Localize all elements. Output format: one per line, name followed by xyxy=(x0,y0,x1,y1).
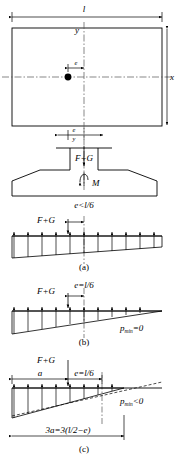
dimension-x-label: x xyxy=(169,72,174,82)
plan-eccentricity-label: e xyxy=(75,59,78,66)
plan-view-group: l y x e xyxy=(2,4,174,140)
section-axis-y-label: y xyxy=(72,135,76,142)
section-eccentricity-label: e xyxy=(73,126,76,133)
case-a-pressure-trapezoid xyxy=(12,236,162,258)
moment-label: M xyxy=(91,178,100,188)
case-c-3a-dim: 3a=3(l/2−e) xyxy=(12,415,124,440)
case-a-load-label: F+G xyxy=(36,215,56,225)
case-c-caption: (c) xyxy=(79,444,89,454)
case-c-3a-label: 3a=3(l/2−e) xyxy=(44,425,90,435)
case-a-group: F+G (a) xyxy=(12,215,162,272)
case-c-load-label: F+G xyxy=(36,355,56,365)
case-b-caption: (b) xyxy=(79,337,90,347)
load-point-dot xyxy=(65,74,72,81)
case-c-group: F+G e=l/6 a pmin<0 xyxy=(12,355,162,454)
case-c-pmin-label: pmin<0 xyxy=(119,396,144,407)
plan-axis-y-label: y xyxy=(74,25,79,35)
engineering-figure: l y x e e y xyxy=(0,0,175,471)
dimension-l-label: l xyxy=(83,4,86,14)
section-eccentricity-dim: e y xyxy=(58,126,103,142)
case-b-group: F+G e=l/6 pmin=0 (b) xyxy=(12,280,162,347)
case-b-load-label: F+G xyxy=(36,286,56,296)
case-c-a-dim: a xyxy=(12,368,68,384)
axial-load-label: F+G xyxy=(74,153,94,163)
case-c-a-label: a xyxy=(38,368,43,378)
dimension-l: l xyxy=(12,4,162,22)
case-c-condition-label: e=l/6 xyxy=(74,368,94,378)
case-b-pmin-label: pmin=0 xyxy=(119,323,144,334)
figure-root: l y x e e y xyxy=(0,0,175,471)
case-a-caption: (a) xyxy=(79,262,89,272)
case-c-pressure-arrows xyxy=(14,384,112,418)
plan-eccentricity-dim: e xyxy=(68,59,84,72)
case-a-condition-label: e<l/6 xyxy=(74,200,94,210)
section-view-group: e y F+G M xyxy=(12,126,157,196)
